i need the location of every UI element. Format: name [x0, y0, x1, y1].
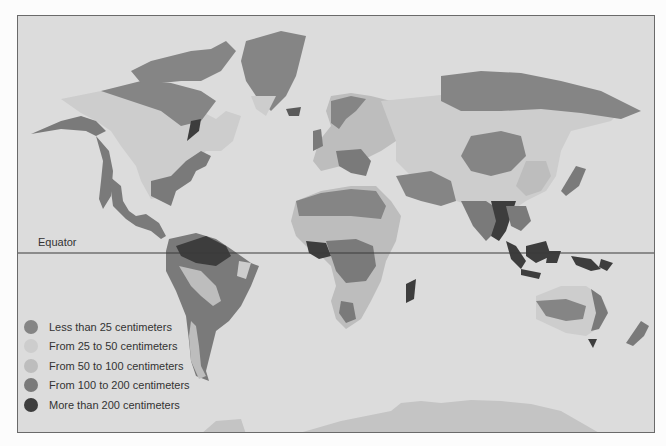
- legend-item-25-to-50: From 25 to 50 centimeters: [24, 337, 190, 357]
- legend-swatch-icon: [24, 378, 38, 392]
- japan: [561, 166, 586, 196]
- legend-swatch-icon: [24, 359, 38, 373]
- legend-item-more-than-200: More than 200 centimeters: [24, 395, 190, 415]
- legend-item-50-to-100: From 50 to 100 centimeters: [24, 356, 190, 376]
- legend-item-less-than-25: Less than 25 centimeters: [24, 317, 190, 337]
- legend-label: From 25 to 50 centimeters: [49, 340, 177, 352]
- canada-islands: [131, 41, 236, 83]
- legend-label: More than 200 centimeters: [49, 399, 180, 411]
- legend-swatch-icon: [24, 398, 38, 412]
- equator-label: Equator: [38, 236, 77, 248]
- legend-item-100-to-200: From 100 to 200 centimeters: [24, 376, 190, 396]
- indonesia: [506, 241, 613, 279]
- legend-swatch-icon: [24, 320, 38, 334]
- legend-label: From 50 to 100 centimeters: [49, 360, 184, 372]
- indochina: [506, 206, 531, 231]
- central-africa: [326, 239, 376, 283]
- legend-label: From 100 to 200 centimeters: [49, 379, 190, 391]
- antarctica: [201, 400, 601, 433]
- legend-label: Less than 25 centimeters: [49, 321, 172, 333]
- iceland: [286, 107, 301, 116]
- legend: Less than 25 centimeters From 25 to 50 c…: [24, 317, 190, 415]
- madagascar: [406, 279, 416, 303]
- sahara: [296, 189, 386, 219]
- legend-swatch-icon: [24, 339, 38, 353]
- map-frame: Equator Less than 25 centimeters From 25…: [17, 15, 655, 433]
- north-america-west: [31, 116, 113, 209]
- new-zealand: [626, 321, 649, 346]
- tasmania: [588, 339, 597, 348]
